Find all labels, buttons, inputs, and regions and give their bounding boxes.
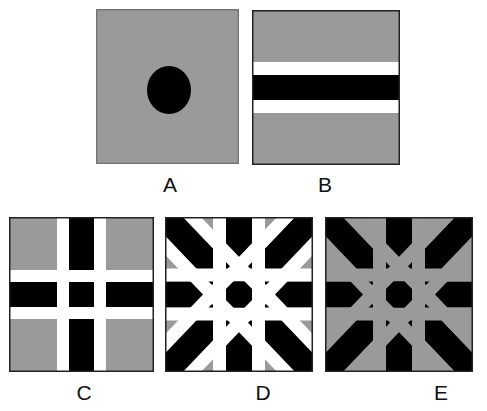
center-square	[69, 282, 94, 307]
panel-d-graphic	[165, 217, 313, 372]
panel-c-label: C	[64, 382, 104, 404]
panel-e-star-bars-gray	[325, 217, 473, 372]
panel-c-cross-bars	[9, 217, 154, 372]
panel-b-label: B	[305, 174, 345, 196]
panel-d-star-bars-white	[165, 217, 313, 372]
panel-a-label: A	[150, 174, 190, 196]
panel-b-graphic	[252, 10, 400, 165]
panel-c-graphic	[9, 217, 154, 372]
panel-d-label: D	[243, 382, 283, 404]
center-octagon	[226, 282, 252, 308]
panel-e-graphic	[325, 217, 473, 372]
panel-a-disk	[96, 9, 239, 164]
panel-b-horizontal-bar	[252, 10, 400, 165]
panel-a-graphic	[96, 9, 239, 164]
panel-e-label: E	[421, 382, 461, 404]
center-octagon	[386, 282, 412, 308]
black-disk	[147, 66, 191, 114]
